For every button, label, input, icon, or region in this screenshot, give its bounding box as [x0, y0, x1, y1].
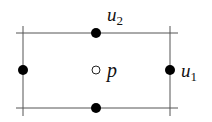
node-right-u1: [165, 65, 175, 75]
node-left: [18, 65, 28, 75]
label-u2: u2: [107, 4, 123, 28]
node-top-u2: [91, 28, 101, 38]
label-p: p: [105, 59, 117, 82]
interior-point-p: [92, 66, 100, 74]
grid-cell-diagram: u2 u1 p: [0, 0, 212, 122]
node-bottom: [91, 103, 101, 113]
label-u1: u1: [181, 60, 197, 84]
